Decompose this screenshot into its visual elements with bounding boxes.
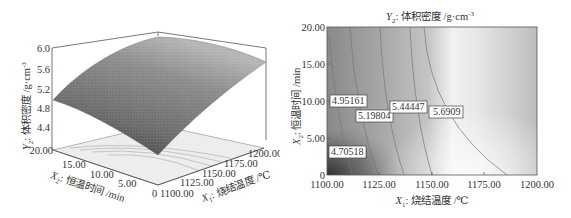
z-axis-ticks: 6.0 5.6 5.2 4.8 4.4 20.00 <box>29 43 53 156</box>
z-tick: 5.6 <box>37 64 50 75</box>
x1-tick: 1100.00 <box>160 188 194 199</box>
contour-label: 4.95161 <box>332 95 365 106</box>
x-tick: 1125.00 <box>362 179 396 190</box>
x2-tick: 5.00 <box>118 178 136 189</box>
z-tick: 5.2 <box>37 84 50 95</box>
x-tick: 1150.00 <box>415 179 449 190</box>
surface-plot: 6.0 5.6 5.2 4.8 4.4 20.00 Y2: 体积密度 /g·cm… <box>0 0 280 218</box>
x1-tick: 1150.00 <box>202 168 236 179</box>
z-tick: 4.8 <box>37 103 50 114</box>
contour-title: Y2: 体积密度 /g·cm-3 <box>386 10 474 25</box>
z-axis-label: Y2: 体积密度 /g·cm-3 <box>20 62 35 150</box>
x2-tick: 10.00 <box>90 169 114 180</box>
contour-plot: Y2: 体积密度 /g·cm-3 4.95161 5.19804 5. <box>280 0 571 218</box>
contour-label: 5.44447 <box>392 101 425 112</box>
x-tick: 1175.00 <box>467 179 501 190</box>
contour-label: 5.6909 <box>433 106 461 117</box>
x1-tick: 1175.00 <box>224 158 258 169</box>
contour-label: 4.70518 <box>331 146 364 157</box>
x2-axis-label: X2: 恒温时间 /min <box>48 168 128 207</box>
contour-plot-panel: Y2: 体积密度 /g·cm-3 4.95161 5.19804 5. <box>280 0 571 218</box>
z-tick: 4.4 <box>37 122 51 133</box>
z-tick: 6.0 <box>37 43 50 54</box>
x-tick: 1100.00 <box>310 179 344 190</box>
y-tick: 10.00 <box>301 96 325 107</box>
x2-tick: 0 <box>152 188 157 199</box>
y-tick: 5.00 <box>307 133 325 144</box>
x-tick: 1200.00 <box>520 179 554 190</box>
y-tick: 15.00 <box>301 59 325 70</box>
y-tick: 20.00 <box>301 22 325 33</box>
x-axis-label: X1: 烧结温度 /℃ <box>395 194 469 209</box>
y-axis-ticks: 20.00 15.00 10.00 5.00 0 <box>301 22 330 181</box>
contour-label: 5.19804 <box>358 110 391 121</box>
x2-tick: 15.00 <box>62 159 86 170</box>
surface-plot-panel: 6.0 5.6 5.2 4.8 4.4 20.00 Y2: 体积密度 /g·cm… <box>0 0 280 218</box>
x1-tick: 1200.00 <box>248 148 280 159</box>
surface-mesh <box>53 37 266 155</box>
y-tick-top: 20.00 <box>29 145 53 156</box>
